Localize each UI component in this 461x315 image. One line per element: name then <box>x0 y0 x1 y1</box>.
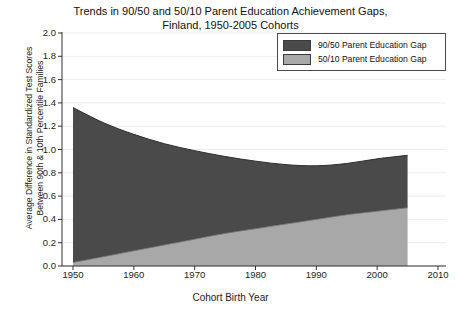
y-axis-label: Average Difference in Standardized Test … <box>24 28 46 248</box>
legend-label: 50/10 Parent Education Gap <box>318 54 426 64</box>
y-axis-label-wrap: Average Difference in Standardized Test … <box>24 28 48 248</box>
x-tick-label: 1990 <box>296 270 336 280</box>
y-tick-label: 0.0 <box>26 261 56 271</box>
x-tick-label: 1980 <box>236 270 276 280</box>
x-tick-label: 1950 <box>53 270 93 280</box>
x-tick-label: 2010 <box>418 270 458 280</box>
legend-swatch <box>283 40 311 51</box>
x-tick-label: 2000 <box>357 270 397 280</box>
y-axis-label-line1: Average Difference in Standardized Test … <box>24 47 34 230</box>
legend-label: 90/50 Parent Education Gap <box>318 40 426 50</box>
legend-item: 50/10 Parent Education Gap <box>283 52 440 66</box>
legend-swatch <box>283 54 311 65</box>
x-axis-label: Cohort Birth Year <box>0 292 461 303</box>
y-axis-ticks <box>58 33 62 266</box>
chart-figure: Trends in 90/50 and 50/10 Parent Educati… <box>0 0 461 315</box>
chart-legend: 90/50 Parent Education Gap50/10 Parent E… <box>277 33 446 71</box>
data-bands <box>73 108 408 266</box>
y-axis-label-line2: Between 90th & 10th Percentile Families <box>35 28 46 248</box>
x-tick-label: 1970 <box>175 270 215 280</box>
legend-item: 90/50 Parent Education Gap <box>283 38 440 52</box>
x-tick-label: 1960 <box>114 270 154 280</box>
